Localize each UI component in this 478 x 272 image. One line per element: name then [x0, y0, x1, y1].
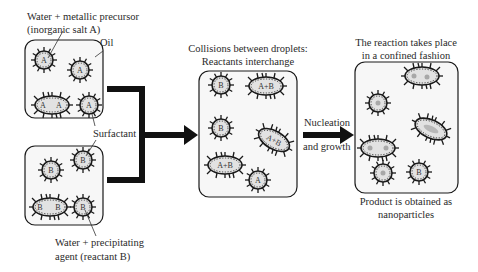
- label-surfactant: Surfactant: [93, 127, 136, 140]
- label-reactants-interchange: Reactants interchange: [188, 55, 308, 68]
- svg-text:B: B: [218, 81, 223, 90]
- svg-text:A: A: [56, 101, 62, 110]
- svg-text:A+B: A+B: [217, 161, 233, 170]
- svg-text:A: A: [40, 101, 46, 110]
- label-inorganic-salt: (inorganic salt A): [27, 23, 100, 36]
- svg-text:B: B: [416, 168, 421, 177]
- arrow-to-collision: [145, 125, 198, 145]
- svg-text:A+B: A+B: [258, 82, 274, 91]
- svg-text:B: B: [55, 203, 60, 212]
- svg-text:B: B: [37, 203, 42, 212]
- svg-text:A: A: [86, 101, 92, 110]
- svg-text:B: B: [48, 166, 53, 175]
- svg-text:A: A: [77, 66, 83, 75]
- label-product-1: Product is obtained as: [346, 195, 466, 208]
- label-nucleation: Nucleation: [304, 116, 350, 129]
- label-oil: Oil: [100, 36, 113, 49]
- label-confined-2: in a confined fashion: [346, 49, 466, 62]
- label-water-precipitating: Water + precipitating: [55, 236, 144, 249]
- svg-text:B: B: [80, 156, 85, 165]
- droplet-label: A: [41, 56, 47, 65]
- label-reactant-b: agent (reactant B): [55, 250, 130, 263]
- label-collisions: Collisions between droplets:: [188, 42, 308, 55]
- label-confined-1: The reaction takes place: [346, 36, 466, 49]
- svg-text:B: B: [218, 124, 223, 133]
- svg-text:A: A: [255, 176, 261, 185]
- label-growth: and growth: [303, 140, 351, 153]
- label-water-metallic: Water + metallic precursor: [27, 10, 139, 23]
- label-product-2: nanoparticles: [346, 208, 466, 221]
